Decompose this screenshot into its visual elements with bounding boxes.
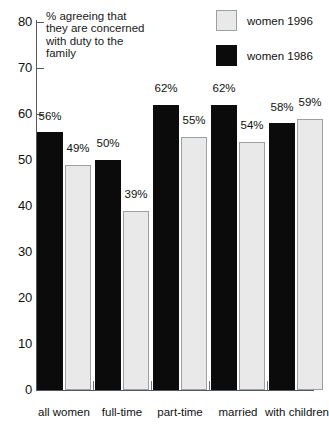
bar-all-women-1996: [65, 165, 91, 390]
bar-with-children-1996: [297, 119, 323, 390]
y-tick-label-30: 30: [4, 245, 32, 258]
x-category-label-all-women: all women: [35, 406, 93, 418]
x-separator-tick-2: [151, 381, 152, 390]
bar-full-time-1986: [95, 160, 121, 390]
y-tick-label-10: 10: [4, 337, 32, 350]
x-axis-line: [36, 390, 314, 391]
bar-value-with-children-1996: 59%: [297, 96, 323, 108]
bar-value-full-time-1986: 50%: [95, 137, 121, 149]
bar-value-married-1996: 54%: [239, 119, 265, 131]
bar-part-time-1996: [181, 137, 207, 390]
x-category-label-with-children: with children: [265, 406, 325, 418]
plot-area: [36, 22, 323, 390]
y-tick-label-80: 80: [4, 15, 32, 28]
bar-value-all-women-1996: 49%: [65, 142, 91, 154]
y-tick-label-40: 40: [4, 199, 32, 212]
x-category-label-part-time: part-time: [151, 406, 209, 418]
bar-value-all-women-1986: 56%: [37, 110, 63, 122]
y-tick-label-70: 70: [4, 61, 32, 74]
y-tick-label-60: 60: [4, 107, 32, 120]
y-tick-label-20: 20: [4, 291, 32, 304]
bar-all-women-1986: [37, 132, 63, 390]
annotation-line-1: % agreeing that: [46, 10, 158, 22]
x-separator-tick-4: [267, 381, 268, 390]
bar-full-time-1996: [123, 211, 149, 390]
bar-part-time-1986: [153, 105, 179, 390]
top-edge-artifact: [0, 0, 323, 2]
bar-with-children-1986: [269, 123, 295, 390]
bar-value-with-children-1986: 58%: [269, 101, 295, 113]
x-separator-tick-3: [209, 381, 210, 390]
x-category-label-full-time: full-time: [93, 406, 151, 418]
bar-married-1986: [211, 105, 237, 390]
bar-value-full-time-1996: 39%: [123, 188, 149, 200]
y-tick-label-50: 50: [4, 153, 32, 166]
bar-value-part-time-1996: 55%: [181, 114, 207, 126]
bar-married-1996: [239, 142, 265, 390]
x-separator-tick-1: [93, 381, 94, 390]
x-category-label-married: married: [209, 406, 267, 418]
bar-value-married-1986: 62%: [211, 82, 237, 94]
bar-value-part-time-1986: 62%: [153, 82, 179, 94]
y-tick-label-0: 0: [4, 383, 32, 396]
